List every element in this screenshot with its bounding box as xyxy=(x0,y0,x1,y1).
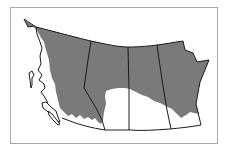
nw-tip xyxy=(24,19,34,27)
western-canada-map xyxy=(0,0,229,152)
haida-gwaii-island xyxy=(29,71,34,88)
